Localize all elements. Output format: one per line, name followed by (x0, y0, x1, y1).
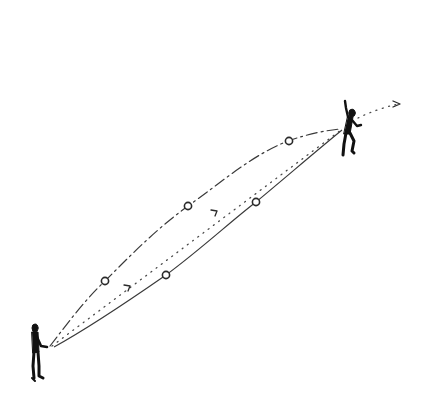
straight-trajectory (52, 130, 341, 346)
lower-arc-marker-2 (252, 198, 259, 205)
receiver-figure (343, 101, 361, 155)
upper-arc-marker-3 (285, 137, 292, 144)
thrower-figure (32, 324, 47, 381)
arrow-head-3 (393, 101, 400, 107)
trajectory-diagram (0, 0, 436, 410)
upper-arc-marker-2 (184, 202, 191, 209)
upper-arc-trajectory (50, 129, 340, 346)
arrow-head-2 (211, 210, 217, 216)
arrow-head-1 (124, 285, 130, 291)
lower-arc-trajectory (54, 130, 342, 347)
lower-arc-marker-1 (162, 271, 169, 278)
continuation-trajectory (358, 104, 398, 118)
upper-arc-marker-1 (101, 277, 108, 284)
